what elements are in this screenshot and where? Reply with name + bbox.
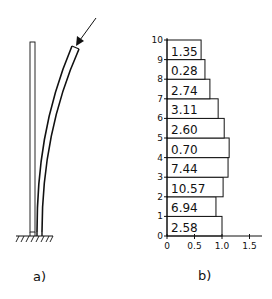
stepped-bar-chart: 2.586.9410.577.440.702.603.112.740.281.3… — [152, 35, 262, 283]
y-tick-label: 1 — [157, 211, 163, 221]
x-tick-label: 1.0 — [215, 241, 230, 251]
ground-hatch — [16, 236, 53, 242]
x-tick-label: 1.5 — [242, 241, 256, 251]
y-tick-label: 8 — [157, 74, 163, 84]
figure: a) 2.586.9410.577.440.702.603.112.740.28… — [0, 0, 272, 299]
y-tick-label: 0 — [157, 231, 163, 241]
deformed-column-top-cap — [72, 46, 79, 49]
load-arrow-shaft — [80, 18, 96, 40]
bars: 2.586.9410.577.440.702.603.112.740.281.3… — [167, 40, 229, 236]
bar-value-label: 10.57 — [171, 182, 205, 196]
bar-value-label: 6.94 — [171, 201, 198, 215]
y-tick-label: 9 — [157, 55, 163, 65]
y-tick-label: 5 — [157, 133, 163, 143]
column-diagram: a) — [16, 18, 96, 284]
x-tick-label: 0.5 — [187, 241, 201, 251]
bar-value-label: 3.11 — [171, 103, 198, 117]
load-arrow-icon — [76, 36, 84, 46]
bar-value-label: 7.44 — [171, 162, 198, 176]
x-ticks: 00.51.01.5 — [164, 234, 257, 251]
panel-label-a: a) — [33, 269, 46, 284]
bar-value-label: 2.74 — [171, 84, 198, 98]
x-tick-label: 0 — [164, 241, 170, 251]
panel-label-b: b) — [198, 268, 211, 283]
bar-value-label: 2.60 — [171, 123, 198, 137]
y-ticks: 012345678910 — [152, 35, 168, 241]
y-tick-label: 4 — [157, 153, 163, 163]
y-tick-label: 6 — [157, 113, 163, 123]
bar-value-label: 0.28 — [171, 64, 198, 78]
y-tick-label: 10 — [152, 35, 164, 45]
y-tick-label: 3 — [157, 172, 163, 182]
bar-value-label: 1.35 — [171, 45, 198, 59]
y-tick-label: 2 — [157, 192, 163, 202]
y-tick-label: 7 — [157, 94, 163, 104]
bar-value-label: 2.58 — [171, 221, 198, 235]
undeformed-column — [30, 42, 35, 232]
bar-value-label: 0.70 — [171, 143, 198, 157]
